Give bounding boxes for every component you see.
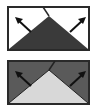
diagram-panel-bottom bbox=[7, 60, 90, 105]
triangle-diagram-dark bbox=[7, 60, 90, 105]
triangle-diagram-light bbox=[7, 6, 90, 51]
diagram-panel-top bbox=[7, 6, 90, 51]
